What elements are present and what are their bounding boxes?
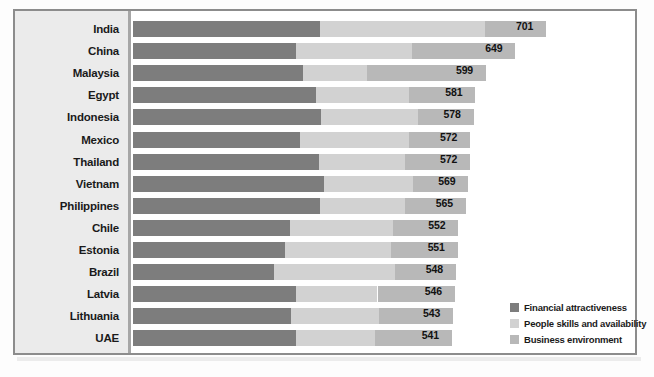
bar-segment-people-skills-and-availability xyxy=(274,264,394,280)
bar-segment-financial-attractiveness xyxy=(133,154,319,170)
bar-value-label: 551 xyxy=(428,239,445,255)
bar-segment-people-skills-and-availability xyxy=(320,198,405,214)
chart-row: Chile552 xyxy=(15,217,635,239)
bar-segment-business-environment xyxy=(405,154,470,170)
chart-legend: Financial attractiveness People skills a… xyxy=(510,300,650,348)
chart-row: Philippines565 xyxy=(15,195,635,217)
stacked-bar[interactable] xyxy=(133,198,466,214)
bar-segment-people-skills-and-availability xyxy=(290,220,393,236)
bar-segment-financial-attractiveness xyxy=(133,286,296,302)
bar-segment-business-environment xyxy=(409,87,476,103)
stacked-bar[interactable] xyxy=(133,242,458,258)
bar-segment-business-environment xyxy=(378,286,455,302)
bar-value-label: 649 xyxy=(485,40,502,56)
bar-value-label: 543 xyxy=(423,305,440,321)
category-label-vietnam: Vietnam xyxy=(15,173,119,195)
stacked-bar[interactable] xyxy=(133,176,468,192)
bar-segment-business-environment xyxy=(375,330,452,346)
stacked-bar[interactable] xyxy=(133,109,474,125)
stacked-bar[interactable] xyxy=(133,286,455,302)
category-label-malaysia: Malaysia xyxy=(15,62,119,84)
bar-segment-people-skills-and-availability xyxy=(291,308,378,324)
chart-row: Mexico572 xyxy=(15,129,635,151)
bar-value-label: 548 xyxy=(426,261,443,277)
bar-value-label: 552 xyxy=(428,217,445,233)
category-label-latvia: Latvia xyxy=(15,283,119,305)
bar-segment-business-environment xyxy=(379,308,453,324)
stacked-bar[interactable] xyxy=(133,308,453,324)
stacked-bar[interactable] xyxy=(133,154,470,170)
bar-segment-financial-attractiveness xyxy=(133,330,296,346)
bar-segment-people-skills-and-availability xyxy=(319,154,405,170)
chart-row: Malaysia599 xyxy=(15,62,635,84)
bar-segment-financial-attractiveness xyxy=(133,308,291,324)
bar-value-label: 599 xyxy=(456,62,473,78)
category-label-estonia: Estonia xyxy=(15,239,119,261)
bar-segment-financial-attractiveness xyxy=(133,242,285,258)
bar-value-label: 541 xyxy=(422,327,439,343)
chart-root: India701China649Malaysia599Egypt581Indon… xyxy=(0,0,654,377)
chart-frame: India701China649Malaysia599Egypt581Indon… xyxy=(13,9,637,355)
frame-shadow xyxy=(17,357,641,361)
legend-swatch-people-skills-and-availability xyxy=(510,319,519,328)
legend-item-business-environment[interactable]: Business environment xyxy=(510,332,650,347)
category-label-indonesia: Indonesia xyxy=(15,106,119,128)
category-label-mexico: Mexico xyxy=(15,129,119,151)
category-label-philippines: Philippines xyxy=(15,195,119,217)
chart-row: China649 xyxy=(15,40,635,62)
category-label-egypt: Egypt xyxy=(15,84,119,106)
bar-segment-financial-attractiveness xyxy=(133,21,320,37)
stacked-bar[interactable] xyxy=(133,330,452,346)
legend-swatch-financial-attractiveness xyxy=(510,303,519,312)
bar-segment-people-skills-and-availability xyxy=(300,132,410,148)
chart-row: Estonia551 xyxy=(15,239,635,261)
bar-segment-business-environment xyxy=(391,242,458,258)
bar-segment-people-skills-and-availability xyxy=(316,87,408,103)
bar-value-label: 578 xyxy=(444,106,461,122)
stacked-bar[interactable] xyxy=(133,132,470,148)
bar-value-label: 701 xyxy=(516,18,533,34)
stacked-bar[interactable] xyxy=(133,87,475,103)
legend-label-business-environment: Business environment xyxy=(524,332,622,347)
legend-label-people-skills-and-availability: People skills and availability xyxy=(524,316,646,331)
chart-row: Egypt581 xyxy=(15,84,635,106)
bar-segment-financial-attractiveness xyxy=(133,220,290,236)
bar-segment-people-skills-and-availability xyxy=(324,176,414,192)
legend-item-people-skills-and-availability[interactable]: People skills and availability xyxy=(510,316,650,331)
bar-segment-financial-attractiveness xyxy=(133,132,300,148)
bar-segment-people-skills-and-availability xyxy=(321,109,418,125)
bar-segment-financial-attractiveness xyxy=(133,264,274,280)
chart-row: India701 xyxy=(15,18,635,40)
bar-segment-financial-attractiveness xyxy=(133,65,303,81)
bar-segment-business-environment xyxy=(393,220,458,236)
chart-row: Indonesia578 xyxy=(15,106,635,128)
bar-value-label: 546 xyxy=(425,283,442,299)
stacked-bar[interactable] xyxy=(133,43,515,59)
bar-segment-people-skills-and-availability xyxy=(303,65,367,81)
bar-segment-financial-attractiveness xyxy=(133,43,296,59)
bar-segment-financial-attractiveness xyxy=(133,109,321,125)
bar-value-label: 569 xyxy=(438,173,455,189)
stacked-bar[interactable] xyxy=(133,220,458,236)
stacked-bar[interactable] xyxy=(133,21,546,37)
chart-row: Vietnam569 xyxy=(15,173,635,195)
chart-row: Brazil548 xyxy=(15,261,635,283)
bar-value-label: 572 xyxy=(440,151,457,167)
category-label-uae: UAE xyxy=(15,327,119,349)
chart-row: Thailand572 xyxy=(15,151,635,173)
legend-label-financial-attractiveness: Financial attractiveness xyxy=(524,300,627,315)
bar-value-label: 565 xyxy=(436,195,453,211)
category-label-lithuania: Lithuania xyxy=(15,305,119,327)
bar-segment-people-skills-and-availability xyxy=(296,330,375,346)
stacked-bar[interactable] xyxy=(133,264,456,280)
category-label-brazil: Brazil xyxy=(15,261,119,283)
bar-segment-people-skills-and-availability xyxy=(320,21,484,37)
bar-segment-financial-attractiveness xyxy=(133,176,324,192)
bar-segment-people-skills-and-availability xyxy=(285,242,391,258)
bar-segment-people-skills-and-availability xyxy=(296,286,378,302)
stacked-bar[interactable] xyxy=(133,65,486,81)
category-label-india: India xyxy=(15,18,119,40)
category-label-thailand: Thailand xyxy=(15,151,119,173)
legend-swatch-business-environment xyxy=(510,335,519,344)
legend-item-financial-attractiveness[interactable]: Financial attractiveness xyxy=(510,300,650,315)
